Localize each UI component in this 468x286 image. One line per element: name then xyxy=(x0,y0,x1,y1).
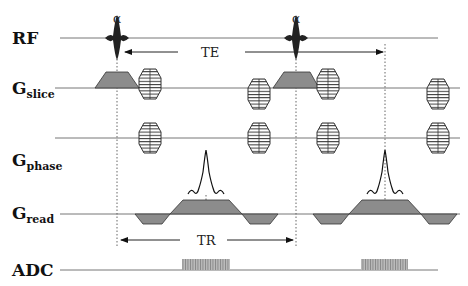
read-spoiler-lobe-2 xyxy=(421,214,457,224)
label-gread: Gread xyxy=(12,205,54,225)
te-label: TE xyxy=(198,46,222,59)
adc-window-2 xyxy=(361,259,408,270)
slice-rephase-blip-2 xyxy=(317,69,339,99)
slice-spoiler-blip-1 xyxy=(248,79,270,109)
slice-select-gradient-2 xyxy=(273,72,319,88)
read-dephase-lobe-2 xyxy=(313,214,349,224)
read-dephase-lobe-1 xyxy=(135,214,170,224)
label-adc: ADC xyxy=(12,262,53,279)
phase-rewind-blip-1 xyxy=(248,123,270,153)
phase-encode-blip-2 xyxy=(317,123,339,153)
adc-window-1 xyxy=(182,259,230,270)
tr-label: TR xyxy=(194,234,218,247)
flip-angle-label-2: α xyxy=(292,13,300,25)
read-readout-lobe-1 xyxy=(170,200,242,214)
echo-signal-1 xyxy=(188,150,224,194)
read-spoiler-lobe-1 xyxy=(242,214,278,224)
label-rf: RF xyxy=(12,30,38,47)
flip-angle-label-1: α xyxy=(113,13,121,25)
slice-spoiler-blip-2 xyxy=(427,79,449,109)
read-readout-lobe-2 xyxy=(349,200,421,214)
pulse-sequence-diagram: RF Gslice Gphase Gread ADC α α TE TR xyxy=(0,0,468,286)
phase-encode-blip-1 xyxy=(139,123,161,153)
sequence-graphic xyxy=(0,0,468,286)
phase-rewind-blip-2 xyxy=(427,123,449,153)
slice-select-gradient-1 xyxy=(95,72,139,88)
label-gphase: Gphase xyxy=(12,152,63,172)
label-gslice: Gslice xyxy=(12,80,55,100)
slice-rephase-blip-1 xyxy=(139,69,161,99)
